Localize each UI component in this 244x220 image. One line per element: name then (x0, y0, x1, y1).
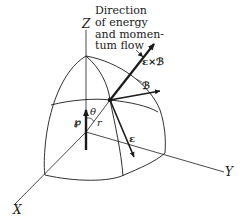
equator-xy (45, 153, 165, 180)
poynting-arrow (110, 44, 154, 100)
z-axis-label: Z (81, 17, 91, 31)
theta-label: θ (90, 106, 96, 117)
electric-label: ε (129, 133, 135, 144)
magnetic-label: ℬ (142, 80, 150, 91)
caption-line-4: tum flow (95, 39, 144, 52)
electric-arrow (110, 100, 134, 157)
r-label: r (97, 117, 103, 128)
dipole-label: ℘ (74, 116, 81, 128)
poynting-label: ε×ℬ (142, 56, 164, 67)
x-axis (14, 132, 86, 205)
radiation-diagram: Direction of energy and momen- tum flow … (0, 0, 244, 220)
y-axis (86, 132, 224, 172)
axes (14, 30, 224, 205)
sphere-octant (44, 56, 165, 180)
latitude-arc (51, 99, 158, 112)
magnetic-arrow (110, 91, 160, 100)
x-axis-label: X (12, 203, 22, 217)
y-axis-label: Y (225, 165, 234, 179)
